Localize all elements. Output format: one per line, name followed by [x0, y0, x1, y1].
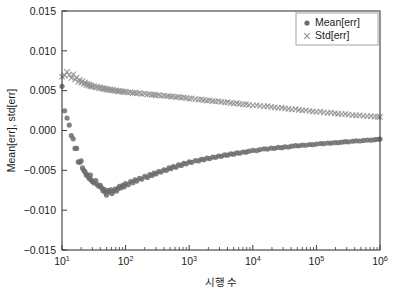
x-tick-label-5: 106 [372, 254, 388, 268]
x-tick-label-3: 104 [245, 254, 261, 268]
y-tick-label-2: 0.005 [30, 84, 56, 96]
chart-legend[interactable]: Mean[err]Std[err] [296, 13, 378, 45]
data-point [74, 146, 79, 151]
data-point [79, 158, 84, 163]
y-axis-label: Mean[err], std[err] [5, 89, 17, 173]
plot-area [62, 11, 380, 250]
y-tick-label-5: −0.010 [24, 204, 57, 216]
y-tick-label-3: 0.000 [30, 124, 56, 136]
legend-label-1: Std[err] [315, 29, 350, 41]
data-point [67, 122, 72, 127]
y-tick-label-1: 0.010 [30, 45, 56, 57]
x-tick-label-4: 105 [309, 254, 325, 268]
x-tick-label-1: 102 [118, 254, 134, 268]
chart-figure: 1011021031041051060.0150.0100.0050.000−0… [0, 0, 395, 297]
y-tick-label-0: 0.015 [30, 5, 56, 17]
x-tick-label-0: 101 [54, 254, 70, 268]
data-point [64, 115, 69, 120]
x-tick-exponent-5: 6 [384, 254, 388, 263]
x-tick-exponent-1: 2 [129, 254, 133, 263]
x-tick-exponent-4: 5 [320, 254, 324, 263]
data-point [88, 173, 93, 178]
y-tick-label-6: −0.015 [24, 244, 57, 256]
x-tick-exponent-2: 3 [193, 254, 197, 263]
data-point [62, 108, 67, 113]
legend-marker-circle-icon [304, 20, 309, 25]
legend-label-0: Mean[err] [315, 16, 360, 28]
y-tick-label-4: −0.005 [24, 164, 57, 176]
x-tick-exponent-3: 4 [257, 254, 261, 263]
x-axis-label: 시행 수 [205, 276, 238, 288]
x-tick-exponent-0: 1 [66, 254, 70, 263]
y-axis-ticks: 0.0150.0100.0050.000−0.005−0.010−0.015 [24, 5, 67, 256]
scatter-chart: 1011021031041051060.0150.0100.0050.000−0… [0, 0, 395, 297]
data-point [71, 136, 76, 141]
x-tick-label-2: 103 [181, 254, 197, 268]
